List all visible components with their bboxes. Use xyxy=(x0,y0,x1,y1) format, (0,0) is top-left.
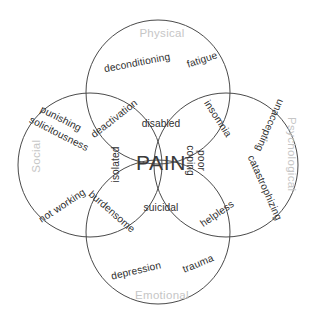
item-poor: poor xyxy=(195,139,206,183)
item-isolated: isolated xyxy=(110,143,121,187)
core-label-pain: PAIN xyxy=(126,152,196,175)
domain-label-emotional: Emotional xyxy=(127,289,197,301)
domain-label-physical: Physical xyxy=(132,27,192,39)
item-unaccepting: unaccepting xyxy=(252,94,288,157)
item-trauma: trauma xyxy=(175,250,222,277)
item-disabled: disabled xyxy=(133,118,189,129)
domain-label-psychological: Psychological xyxy=(286,111,298,197)
label-layer: Physical Social Psychological Emotional … xyxy=(0,0,322,323)
item-deconditioning: deconditioning xyxy=(97,49,178,75)
item-insomnia: insomnia xyxy=(199,93,238,144)
item-fatigue: fatigue xyxy=(178,47,225,72)
item-suicidal: suicidal xyxy=(133,202,189,213)
item-depression: depression xyxy=(103,258,170,284)
domain-label-social: Social xyxy=(30,126,42,186)
item-catastrophizing: catastrophizing xyxy=(242,146,287,229)
pain-venn-diagram: Physical Social Psychological Emotional … xyxy=(0,0,322,323)
item-helpless: helpless xyxy=(192,194,243,234)
